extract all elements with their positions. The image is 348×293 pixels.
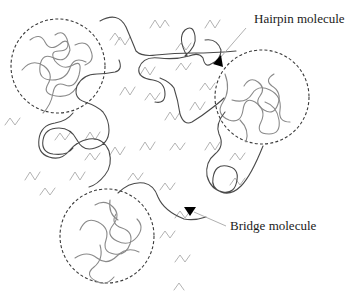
bridge-arrowhead-icon — [184, 207, 196, 216]
polymer-morphology-diagram: Hairpin molecule Bridge molecule — [0, 0, 348, 293]
coil-region-top-left — [11, 19, 105, 113]
hairpin-annotation — [213, 28, 246, 67]
bridge-annotation — [184, 207, 226, 226]
hairpin-molecule-label: Hairpin molecule — [254, 11, 345, 27]
coil-region-bottom-left — [60, 189, 154, 283]
bridge-molecule-label: Bridge molecule — [230, 218, 316, 234]
diagram-canvas — [0, 0, 348, 293]
coil-region-right — [215, 50, 309, 144]
